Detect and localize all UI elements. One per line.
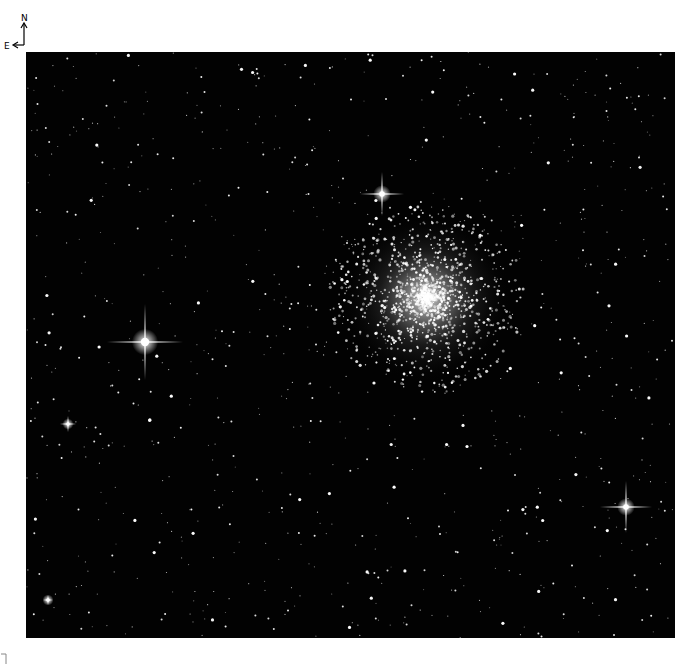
- compass-indicator: N E: [4, 12, 44, 52]
- east-label: E: [4, 41, 10, 51]
- star-bottom-left: [43, 595, 54, 606]
- background-stars: [26, 52, 673, 638]
- astronomical-image: [26, 52, 675, 638]
- bright-stars: [43, 172, 653, 606]
- globular-cluster: [329, 201, 525, 393]
- bright-star-top: [360, 172, 404, 216]
- bright-star-lower-right: [600, 481, 652, 533]
- compass-arrows-icon: N E: [4, 12, 44, 52]
- star-field: [26, 52, 675, 638]
- corner-bracket-icon: [0, 650, 10, 665]
- north-label: N: [21, 13, 28, 23]
- bright-star-left: [107, 304, 183, 380]
- star-left-mid: [60, 416, 76, 432]
- corner-mark: [0, 650, 10, 665]
